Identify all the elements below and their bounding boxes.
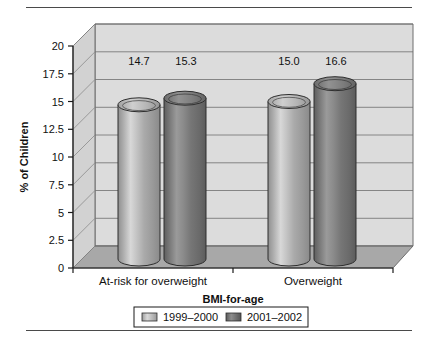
- y-tick-label: 17.5: [43, 68, 64, 80]
- x-category-labels: At-risk for overweight Overweight: [99, 275, 343, 287]
- cylinder-cap: [118, 98, 160, 112]
- y-tick-label: 10: [52, 151, 64, 163]
- legend-label: 1999–2000: [163, 311, 218, 323]
- bar-cylinder-g2-s1[interactable]: [268, 95, 310, 267]
- legend: 1999–2000 2001–2002: [134, 307, 308, 327]
- y-tick-labels: 20 17.5 15 12.5 10 7.5 5 2.5 0: [43, 40, 64, 274]
- y-axis-title: % of Children: [18, 121, 30, 192]
- value-label-g2-s1: 15.0: [278, 55, 299, 67]
- cylinder-cap: [314, 77, 356, 91]
- y-tick-label: 12.5: [43, 123, 64, 135]
- y-tick-label: 15: [52, 96, 64, 108]
- legend-swatch-light: [142, 313, 157, 321]
- x-category-label: At-risk for overweight: [99, 275, 208, 287]
- x-axis-title: BMI-for-age: [202, 293, 263, 305]
- figure-container: 20 17.5 15 12.5 10 7.5 5 2.5 0 % of Chil…: [0, 0, 438, 340]
- y-tick-label: 20: [52, 40, 64, 52]
- value-label-g1-s1: 14.7: [128, 55, 149, 67]
- bar-cylinder-g1-s1[interactable]: [118, 98, 160, 266]
- bar-chart-3d: 20 17.5 15 12.5 10 7.5 5 2.5 0 % of Chil…: [0, 0, 438, 340]
- bar-cylinder-g2-s2[interactable]: [314, 77, 356, 266]
- legend-swatch-dark: [226, 313, 241, 321]
- cylinder-cap: [164, 91, 206, 105]
- y-tick-label: 7.5: [49, 179, 64, 191]
- value-label-g1-s2: 15.3: [175, 55, 196, 67]
- y-axis: [68, 46, 73, 268]
- legend-entry-1999-2000[interactable]: 1999–2000: [142, 311, 218, 323]
- legend-entry-2001-2002[interactable]: 2001–2002: [226, 311, 302, 323]
- bar-cylinder-g1-s2[interactable]: [164, 91, 206, 266]
- y-tick-label: 5: [58, 207, 64, 219]
- legend-label: 2001–2002: [247, 311, 302, 323]
- y-tick-label: 2.5: [49, 234, 64, 246]
- x-axis: [73, 268, 393, 273]
- x-category-label: Overweight: [284, 275, 343, 287]
- value-label-g2-s2: 16.6: [325, 55, 346, 67]
- y-tick-label: 0: [58, 262, 64, 274]
- cylinder-cap: [268, 95, 310, 109]
